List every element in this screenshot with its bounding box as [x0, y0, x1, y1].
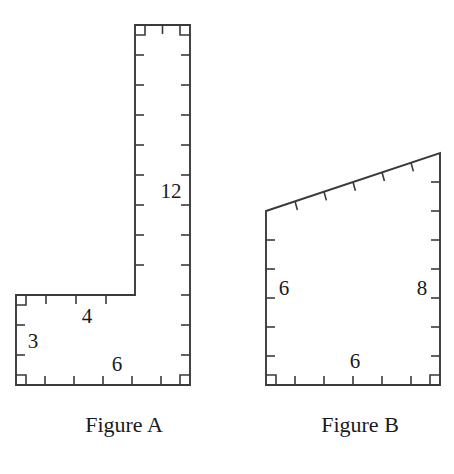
figure-a-outline [16, 25, 190, 385]
figure-a-caption: Figure A [85, 412, 163, 437]
dimension-label-bottom-width: 6 [350, 349, 361, 373]
dimension-label-right-height: 8 [417, 276, 428, 300]
dimension-label-left-height: 6 [279, 276, 290, 300]
figure-b-caption: Figure B [321, 412, 399, 437]
dimension-label-bottom-width: 6 [112, 352, 123, 376]
figure-b-group: 686 Figure B [266, 153, 440, 437]
dimension-label-foot-top-width: 4 [82, 304, 93, 328]
dimension-label-foot-left-height: 3 [28, 329, 39, 353]
figure-a-group: 12436 Figure A [16, 25, 190, 437]
dimension-label-vertical-height: 12 [161, 179, 182, 203]
geometry-figures-canvas: 12436 Figure A 686 Figure B [0, 0, 454, 474]
